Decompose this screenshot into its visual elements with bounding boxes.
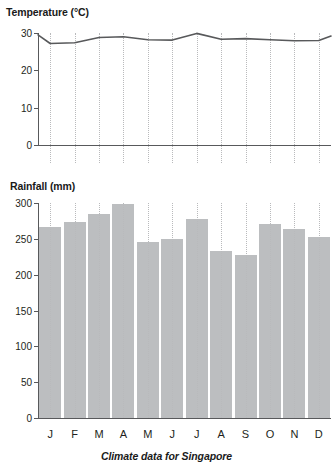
rainfall-gridline (246, 203, 247, 418)
month-label: A (217, 428, 224, 440)
temperature-line-series (0, 0, 333, 165)
climate-figure: Temperature (°C) 3020100 Rainfall (mm) 3… (0, 0, 333, 466)
rainfall-tick-label: 150 (2, 305, 32, 316)
rainfall-gridline (123, 203, 124, 418)
month-label: N (290, 428, 298, 440)
rainfall-gridline (294, 203, 295, 418)
month-label: S (242, 428, 249, 440)
month-label: M (143, 428, 152, 440)
rainfall-tick-label: 0 (2, 413, 32, 424)
rainfall-axis-title: Rainfall (mm) (10, 180, 75, 192)
month-label: O (266, 428, 275, 440)
temperature-chart: Temperature (°C) 3020100 (0, 0, 333, 165)
month-label: M (94, 428, 103, 440)
month-label: F (71, 428, 78, 440)
month-label: A (120, 428, 127, 440)
rainfall-chart: Rainfall (mm) 300250200150100500 JFMAMJJ… (0, 170, 333, 466)
rainfall-tick-label: 300 (2, 198, 32, 209)
rainfall-gridline (221, 203, 222, 418)
rainfall-gridline (270, 203, 271, 418)
rainfall-gridline (75, 203, 76, 418)
rainfall-gridline (99, 203, 100, 418)
rainfall-gridline (172, 203, 173, 418)
figure-caption: Climate data for Singapore (0, 450, 333, 462)
rainfall-gridline (319, 203, 320, 418)
month-label: J (194, 428, 200, 440)
rainfall-y-axis-line (38, 203, 39, 419)
rainfall-tick-label: 50 (2, 377, 32, 388)
rainfall-tick-label: 250 (2, 233, 32, 244)
rainfall-gridline (148, 203, 149, 418)
month-label: J (170, 428, 176, 440)
rainfall-gridline (50, 203, 51, 418)
month-label: J (47, 428, 53, 440)
rainfall-tick-label: 100 (2, 341, 32, 352)
rainfall-tick-label: 200 (2, 269, 32, 280)
month-label: D (315, 428, 323, 440)
rainfall-gridline (197, 203, 198, 418)
rainfall-x-axis-line (38, 418, 331, 419)
